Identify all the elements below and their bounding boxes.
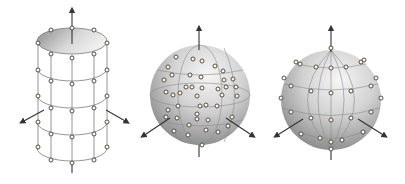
- sample-point: [329, 66, 333, 70]
- sample-point: [215, 104, 219, 108]
- sample-point: [369, 110, 373, 114]
- sample-point: [166, 65, 170, 69]
- sample-point: [195, 94, 199, 98]
- sample-point: [195, 112, 199, 116]
- sample-point: [200, 86, 204, 90]
- sample-point: [176, 104, 180, 108]
- sample-point: [230, 115, 234, 119]
- sample-point: [299, 132, 303, 136]
- sample-point: [172, 129, 176, 133]
- sample-point: [199, 75, 203, 79]
- sample-point: [187, 123, 191, 127]
- sample-point: [204, 103, 208, 107]
- sample-point: [298, 62, 302, 66]
- sample-point: [213, 64, 217, 68]
- sample-point: [318, 136, 322, 140]
- sample-point: [329, 46, 333, 50]
- sample-point: [329, 91, 333, 95]
- sample-point: [162, 78, 166, 82]
- sample-point: [188, 73, 192, 77]
- sample-point: [226, 124, 230, 128]
- cylinder-panel: [22, 10, 127, 173]
- sample-point: [309, 116, 313, 120]
- sample-point: [220, 93, 224, 97]
- sample-point: [200, 59, 204, 63]
- sample-point: [184, 85, 188, 89]
- figure-stage: [0, 0, 405, 184]
- sample-point: [379, 96, 383, 100]
- sample-point: [344, 65, 348, 69]
- sample-point: [175, 116, 179, 120]
- sample-point: [204, 128, 208, 132]
- sample-point: [166, 108, 170, 112]
- sample-point: [361, 130, 365, 134]
- sample-point: [234, 85, 238, 89]
- sample-point: [164, 90, 168, 94]
- sample-point: [224, 85, 228, 89]
- sample-point: [178, 91, 182, 95]
- sample-point: [198, 104, 202, 108]
- sample-point: [195, 117, 199, 121]
- sample-point: [174, 55, 178, 59]
- sample-point: [235, 94, 239, 98]
- sample-point: [329, 147, 333, 151]
- sample-point: [171, 93, 175, 97]
- sample-point: [164, 115, 168, 119]
- sample-point: [329, 118, 333, 122]
- sample-point: [294, 60, 298, 64]
- sample-point: [329, 140, 333, 144]
- sample-point: [221, 69, 225, 73]
- sample-point: [289, 84, 293, 88]
- sample-point: [349, 89, 353, 93]
- sample-point: [186, 133, 190, 137]
- sample-point: [282, 76, 286, 80]
- sample-point: [314, 65, 318, 69]
- sample-point: [289, 110, 293, 114]
- sample-point: [206, 118, 210, 122]
- x-axis-arrow: [22, 110, 44, 122]
- sample-point: [216, 87, 220, 91]
- sample-point: [369, 84, 373, 88]
- sampling-diagram: [0, 0, 405, 184]
- sample-point: [279, 96, 283, 100]
- sample-point: [309, 89, 313, 93]
- sample-point: [170, 73, 174, 77]
- random-sphere-panel: [143, 28, 253, 157]
- sample-point: [374, 76, 378, 80]
- sample-point: [191, 57, 195, 61]
- sample-point: [349, 116, 353, 120]
- sample-point: [200, 143, 204, 147]
- sample-point: [216, 130, 220, 134]
- sample-point: [231, 77, 235, 81]
- sample-point: [222, 78, 226, 82]
- uniform-sphere-panel: [276, 28, 385, 160]
- sample-point: [340, 138, 344, 142]
- sample-point: [190, 85, 194, 89]
- sample-point: [362, 58, 366, 62]
- y-axis-arrow: [106, 110, 127, 122]
